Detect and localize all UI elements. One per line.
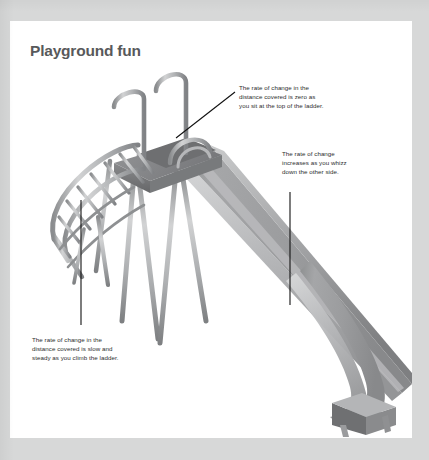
playground-slide-illustration [10,21,412,438]
slide-chute [170,145,412,437]
callout-top-of-ladder-line-1: The rate of change in the [239,83,324,92]
callout-whizz-down-line-2: increases as you whizz [282,158,347,167]
callout-top-of-ladder: The rate of change in the distance cover… [239,83,324,110]
callout-climb-ladder-line-3: steady as you climb the ladder. [32,353,119,362]
callout-whizz-down-line-1: The rate of change [282,149,347,158]
callout-whizz-down-line-3: down the other side. [282,167,347,176]
callout-climb-ladder: The rate of change in the distance cover… [32,335,119,362]
page-sheet: Playground fun The rate of change in the… [10,21,412,438]
callout-climb-ladder-line-2: distance covered is slow and [32,344,119,353]
callout-climb-ladder-line-1: The rate of change in the [32,335,119,344]
page-title: Playground fun [30,42,141,60]
callout-top-of-ladder-line-2: distance covered is zero as [239,92,324,101]
callout-top-of-ladder-line-3: you sit at the top of the ladder. [239,101,324,110]
callout-whizz-down: The rate of change increases as you whiz… [282,149,347,176]
